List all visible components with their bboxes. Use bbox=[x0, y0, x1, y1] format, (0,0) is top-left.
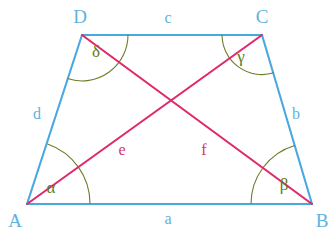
diagonal-f-line bbox=[82, 35, 312, 204]
side-b-line bbox=[262, 35, 312, 204]
angle-arcs bbox=[48, 35, 295, 204]
angle-arc-gamma bbox=[222, 35, 274, 75]
trapezoid-sides bbox=[27, 35, 312, 204]
side-d-line bbox=[27, 35, 82, 204]
trapezoid-figure bbox=[0, 0, 334, 248]
diagonal-e-line bbox=[27, 35, 262, 204]
geometry-diagram-canvas: A B C D a b c d e f α β γ δ bbox=[0, 0, 334, 248]
angle-arc-delta bbox=[67, 35, 128, 81]
